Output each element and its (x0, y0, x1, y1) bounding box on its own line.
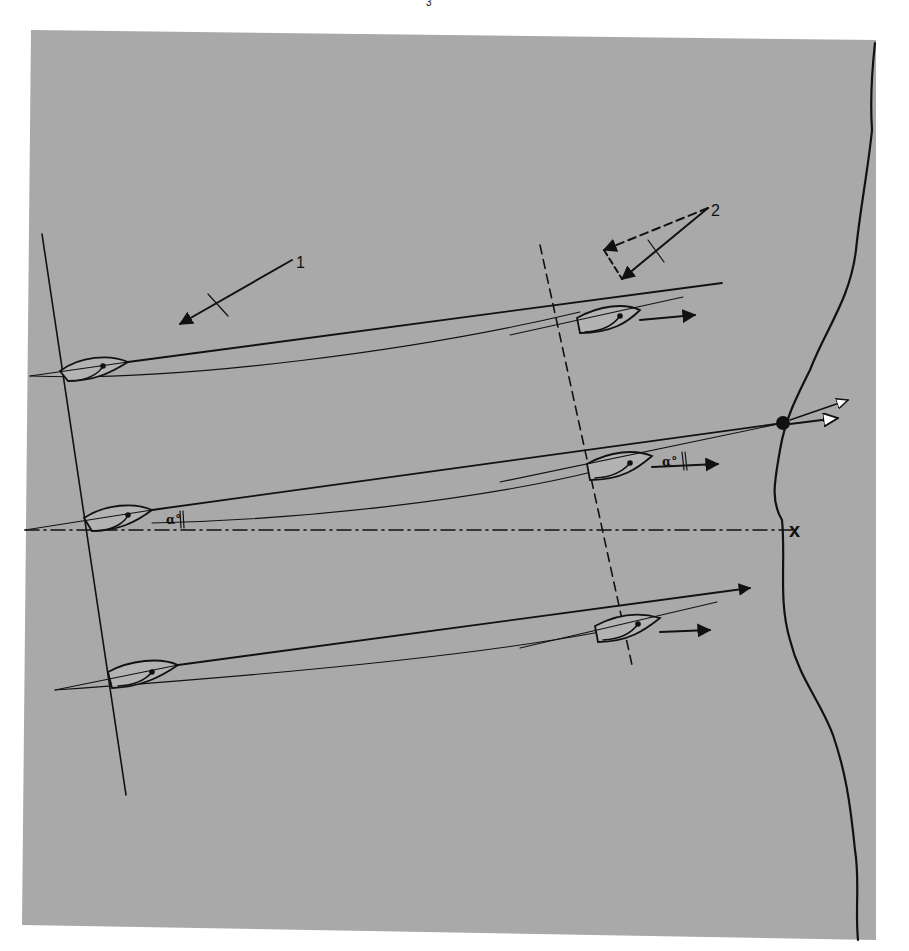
boat-mast-icon (100, 363, 106, 369)
boat-mast-icon (149, 669, 155, 675)
angle-alpha-label: α° (662, 455, 677, 469)
wind-2-label: 2 (711, 202, 720, 219)
page-number: 3 (426, 0, 432, 8)
angle-alpha-label: α° (166, 513, 181, 527)
wind-1-label: 1 (296, 254, 305, 271)
boat-mast-icon (617, 313, 623, 319)
finish-x-marker: x (789, 519, 800, 541)
water-panel (22, 30, 876, 940)
sailing-tactics-diagram: 3 x 1 2 α°α° (0, 0, 909, 951)
boat-mast-icon (627, 460, 633, 466)
boat-mast-icon (635, 621, 641, 627)
mark-buoy-icon (776, 416, 790, 430)
boat-mast-icon (125, 512, 131, 518)
